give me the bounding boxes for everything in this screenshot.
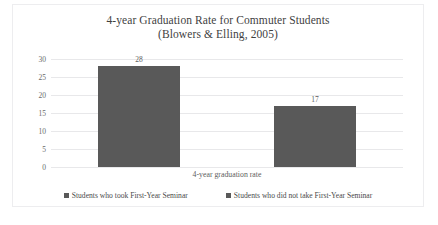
gridline [51,167,403,168]
y-axis-tick-label: 5 [42,145,46,154]
y-axis-tick-label: 20 [39,91,47,100]
legend-swatch-icon [64,193,69,198]
y-axis-tick-label: 10 [39,127,47,136]
y-axis-tick-label: 15 [39,109,47,118]
legend-label: Students who did not take First-Year Sem… [234,191,372,200]
y-axis-tick-label: 0 [42,163,46,172]
gridline [51,59,403,60]
chart-title-line-2: (Blowers & Elling, 2005) [13,27,423,41]
chart-legend: Students who took First-Year SeminarStud… [13,191,423,200]
legend-label: Students who took First-Year Seminar [72,191,188,200]
y-axis-tick-label: 30 [39,55,47,64]
chart-container: 4-year Graduation Rate for Commuter Stud… [12,4,424,207]
legend-swatch-icon [226,193,231,198]
bar-series-2[interactable] [274,106,356,167]
y-axis-tick-label: 25 [39,73,47,82]
plot-area: 3025201510502817 [51,59,403,167]
chart-title: 4-year Graduation Rate for Commuter Stud… [13,13,423,41]
bar-value-label: 17 [311,95,319,104]
legend-item-2[interactable]: Students who did not take First-Year Sem… [226,191,372,200]
legend-item-1[interactable]: Students who took First-Year Seminar [64,191,188,200]
x-axis-label: 4-year graduation rate [51,170,403,179]
bar-series-1[interactable] [98,66,180,167]
bar-value-label: 28 [135,55,143,64]
chart-title-line-1: 4-year Graduation Rate for Commuter Stud… [13,13,423,27]
